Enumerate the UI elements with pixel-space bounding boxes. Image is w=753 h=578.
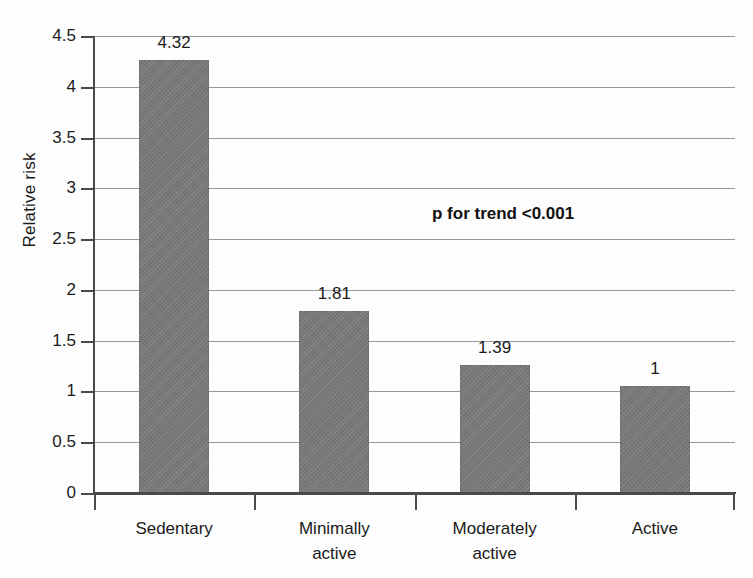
y-axis-tick-label: 2.5	[6, 229, 76, 249]
x-category-label-line: Moderately	[415, 516, 575, 541]
x-axis-category-label-active: Active	[575, 516, 735, 541]
x-category-label-line: Sedentary	[94, 516, 254, 541]
x-axis-separator-tick	[575, 494, 577, 510]
x-axis-right-end-tick	[733, 494, 735, 510]
y-axis-tick-2.5	[81, 239, 95, 241]
bar-sedentary[interactable]	[139, 60, 209, 493]
y-axis-tick-label: 1.5	[6, 331, 76, 351]
x-category-label-line: active	[415, 541, 575, 566]
bar-value-label: 1.81	[274, 284, 394, 304]
y-axis-tick-1.5	[81, 341, 95, 343]
y-axis-tick-0.5	[81, 442, 95, 444]
y-axis-tick-labels: 00.511.522.533.544.5	[0, 0, 76, 578]
y-axis-tick-3	[81, 188, 95, 190]
x-axis-category-label-minimally-active: Minimallyactive	[254, 516, 414, 566]
bar-minimally-active[interactable]	[299, 311, 369, 493]
y-axis-tick-3.5	[81, 138, 95, 140]
bar-value-label: 4.32	[114, 33, 234, 53]
bar-value-label: 1	[595, 359, 715, 379]
bar-active[interactable]	[620, 386, 690, 493]
plot-area	[94, 36, 735, 493]
x-axis-category-label-moderately-active: Moderatelyactive	[415, 516, 575, 566]
bar-moderately-active[interactable]	[460, 365, 530, 493]
bar-chart-figure: Relative risk 00.511.522.533.544.5 p for…	[0, 0, 753, 578]
y-axis-tick-4	[81, 87, 95, 89]
y-axis-tick-2	[81, 290, 95, 292]
x-category-label-line: Minimally	[254, 516, 414, 541]
p-for-trend-annotation: p for trend <0.001	[432, 204, 574, 224]
y-axis-tick-label: 2	[6, 280, 76, 300]
x-category-label-line: Active	[575, 516, 735, 541]
y-axis-tick-label: 1	[6, 381, 76, 401]
y-axis-tick-0	[81, 493, 95, 495]
x-axis-separator-tick	[254, 494, 256, 510]
y-axis-tick-label: 4.5	[6, 26, 76, 46]
x-axis-separator-tick	[415, 494, 417, 510]
y-axis-tick-label: 0.5	[6, 432, 76, 452]
y-axis-tick-label: 3	[6, 178, 76, 198]
bar-value-label: 1.39	[435, 338, 555, 358]
y-axis-tick-1	[81, 391, 95, 393]
y-axis-tick-label: 4	[6, 77, 76, 97]
y-axis-tick-label: 0	[6, 483, 76, 503]
x-category-label-line: active	[254, 541, 414, 566]
y-axis-tick-4.5	[81, 36, 95, 38]
y-axis-tick-label: 3.5	[6, 128, 76, 148]
x-axis-category-label-sedentary: Sedentary	[94, 516, 254, 541]
x-axis-left-end-tick	[94, 494, 96, 510]
